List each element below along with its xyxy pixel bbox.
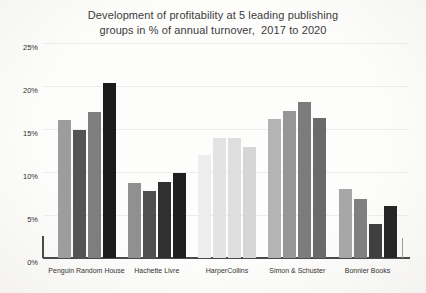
bar xyxy=(73,130,86,258)
bar xyxy=(384,206,397,258)
bar xyxy=(173,173,186,258)
y-axis-tick-label: 20% xyxy=(0,86,38,95)
bar xyxy=(339,189,352,258)
bar-group: Bonnier Books xyxy=(338,189,397,258)
x-axis-category-label: Bonnier Books xyxy=(345,267,391,274)
y-axis: 25%20%15%10%5%0% xyxy=(0,43,38,258)
bar xyxy=(354,199,367,258)
x-axis-category-label: Penguin Random House xyxy=(48,267,124,274)
bar xyxy=(243,147,256,258)
plot-area: Penguin Random HouseHachette LivreHarper… xyxy=(43,43,403,258)
y-axis-tick-label: 0% xyxy=(0,258,38,267)
bar xyxy=(313,118,326,258)
bar xyxy=(103,83,116,258)
bar xyxy=(128,183,141,258)
bar xyxy=(158,182,171,258)
chart-title-line2: groups in % of annual turnover, 2017 to … xyxy=(0,23,426,38)
bar-group: Penguin Random House xyxy=(57,83,116,258)
x-axis-category-label: Simon & Schuster xyxy=(269,267,325,274)
chart-title: Development of profitability at 5 leadin… xyxy=(0,8,426,37)
bar xyxy=(88,112,101,258)
bar xyxy=(228,138,241,258)
bar xyxy=(298,102,311,258)
bar xyxy=(143,191,156,258)
bar xyxy=(198,155,211,258)
y-axis-tick-label: 5% xyxy=(0,215,38,224)
bar xyxy=(283,111,296,258)
x-axis-category-label: HarperCollins xyxy=(206,267,248,274)
chart-canvas: Development of profitability at 5 leadin… xyxy=(0,0,426,293)
bar-group: Simon & Schuster xyxy=(268,102,327,258)
y-axis-tick-label: 15% xyxy=(0,129,38,138)
bar xyxy=(369,224,382,258)
x-axis-category-label: Hachette Livre xyxy=(134,267,179,274)
chart-title-line1: Development of profitability at 5 leadin… xyxy=(0,8,426,23)
bar xyxy=(268,119,281,258)
bar-group: Hachette Livre xyxy=(127,173,186,258)
bar-group: HarperCollins xyxy=(198,138,257,258)
y-axis-tick-label: 10% xyxy=(0,172,38,181)
bar xyxy=(58,120,71,258)
bar-groups: Penguin Random HouseHachette LivreHarper… xyxy=(43,43,403,258)
bar xyxy=(213,138,226,258)
y-axis-tick-label: 25% xyxy=(0,43,38,52)
